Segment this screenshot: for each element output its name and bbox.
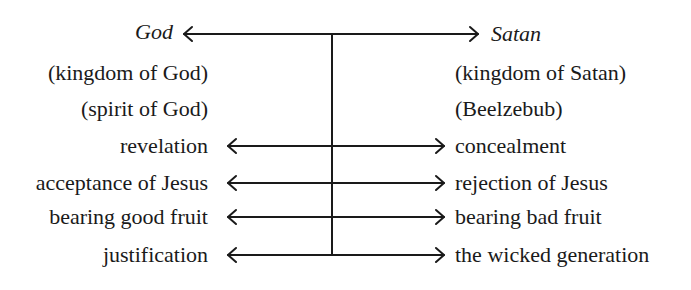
right-label-the-wicked-generation: the wicked generation: [455, 242, 649, 268]
left-label-kingdom-of-god: (kingdom of God): [48, 60, 208, 86]
left-label-revelation: revelation: [120, 133, 208, 159]
right-label-kingdom-of-satan: (kingdom of Satan): [455, 60, 626, 86]
left-label-acceptance-of-jesus: acceptance of Jesus: [36, 170, 208, 196]
double-arrow-acceptance-rejection: [228, 176, 444, 190]
double-arrow-revelation-concealment: [228, 139, 444, 153]
pole-label-satan: Satan: [491, 21, 541, 47]
left-label-bearing-good-fruit: bearing good fruit: [49, 204, 208, 230]
double-arrow-justification-wicked: [228, 248, 444, 262]
left-label-justification: justification: [103, 242, 208, 268]
pole-label-god: God: [135, 19, 173, 45]
right-label-beelzebub: (Beelzebub): [455, 96, 563, 122]
double-arrow-good-bad-fruit: [228, 210, 444, 224]
left-label-spirit-of-god: (spirit of God): [81, 96, 208, 122]
opposition-diagram: God Satan (kingdom of God) (spirit of Go…: [0, 0, 691, 290]
right-label-bearing-bad-fruit: bearing bad fruit: [455, 204, 602, 230]
right-label-concealment: concealment: [455, 133, 566, 159]
right-label-rejection-of-jesus: rejection of Jesus: [455, 170, 608, 196]
